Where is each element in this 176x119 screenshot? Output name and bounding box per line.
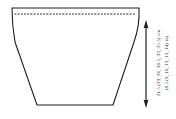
height-measurement-in: (8.5 (9, 10, 12, 13, 14) in) (163, 13, 171, 113)
garment-outline (12, 8, 139, 105)
height-measurement-cm: 21.5 (23, 26, 30.5, 33, 35.5) cm (155, 13, 163, 113)
height-arrow-icon (144, 20, 149, 108)
schematic-canvas (0, 0, 176, 119)
height-measurement: 21.5 (23, 26, 30.5, 33, 35.5) cm (8.5 (9… (155, 13, 171, 113)
knitting-schematic-diagram: 21.5 (23, 26, 30.5, 33, 35.5) cm (8.5 (9… (0, 0, 176, 119)
